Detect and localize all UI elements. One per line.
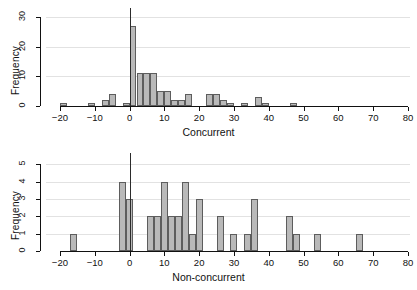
histogram-bar (217, 216, 224, 251)
x-tick-label: 30 (219, 112, 249, 123)
x-tick-label: 60 (323, 112, 353, 123)
x-tick-label: −10 (80, 257, 110, 268)
x-tick-mark (304, 107, 305, 111)
x-tick-label: 50 (289, 112, 319, 123)
x-tick-mark (234, 107, 235, 111)
histogram-bar (189, 234, 196, 251)
histogram-bar (154, 216, 161, 251)
gridline (46, 164, 410, 165)
x-tick-mark (95, 252, 96, 256)
x-tick-label: 80 (393, 112, 417, 123)
x-tick-label: −20 (45, 112, 75, 123)
y-tick-mark (36, 216, 40, 217)
x-tick-label: 40 (254, 112, 284, 123)
histogram-bar (196, 199, 203, 251)
x-tick-mark (269, 107, 270, 111)
histogram-bar (356, 234, 363, 251)
x-tick-mark (338, 107, 339, 111)
x-tick-mark (130, 107, 131, 111)
x-tick-label: 70 (358, 257, 388, 268)
x-tick-mark (338, 252, 339, 256)
x-tick-label: −20 (45, 257, 75, 268)
x-tick-label: 40 (254, 257, 284, 268)
x-tick-label: 0 (115, 112, 145, 123)
y-tick-label: 20 (17, 34, 27, 58)
x-tick-label: 0 (115, 257, 145, 268)
histogram-bar (137, 73, 144, 106)
histogram-bar (119, 182, 126, 251)
gridline (46, 47, 410, 48)
x-tick-label: 20 (184, 112, 214, 123)
plot-area-non-concurrent (46, 159, 408, 251)
x-tick-mark (164, 252, 165, 256)
histogram-bar (230, 234, 237, 251)
gridline (46, 76, 410, 77)
y-tick-label: 30 (17, 4, 27, 28)
histogram-bar (147, 216, 154, 251)
histogram-bar (164, 91, 171, 106)
histogram-bar (130, 26, 137, 106)
histogram-bar (175, 216, 182, 251)
panel-concurrent: Frequency Concurrent −20−100102030405060… (0, 0, 417, 145)
histogram-bar (185, 94, 192, 106)
y-tick-mark (36, 182, 40, 183)
y-axis-line (40, 164, 41, 251)
histogram-bar (168, 216, 175, 251)
histogram-bar (213, 94, 220, 106)
histogram-bar (109, 94, 116, 106)
x-tick-mark (95, 107, 96, 111)
histogram-bar (255, 97, 262, 106)
plot-area-concurrent (46, 14, 408, 106)
gridline (46, 17, 410, 18)
panel-non-concurrent: Frequency Non-concurrent −20−10010203040… (0, 145, 417, 290)
x-tick-mark (269, 252, 270, 256)
histogram-bar (286, 216, 293, 251)
reference-line-zero (130, 8, 131, 106)
y-tick-label: 0 (17, 93, 27, 117)
x-tick-mark (199, 107, 200, 111)
x-tick-label: 10 (149, 257, 179, 268)
x-tick-mark (164, 107, 165, 111)
x-tick-label: 10 (149, 112, 179, 123)
x-tick-label: 20 (184, 257, 214, 268)
histogram-bar (150, 73, 157, 106)
histogram-bar (143, 73, 150, 106)
histogram-figure: Frequency Concurrent −20−100102030405060… (0, 0, 417, 290)
x-tick-mark (60, 252, 61, 256)
y-tick-mark (36, 164, 40, 165)
histogram-bar (244, 234, 251, 251)
x-tick-mark (408, 252, 409, 256)
x-tick-mark (304, 252, 305, 256)
x-tick-label: 80 (393, 257, 417, 268)
histogram-bar (182, 182, 189, 251)
x-tick-mark (373, 252, 374, 256)
x-axis-label-non-concurrent: Non-concurrent (0, 271, 417, 283)
y-tick-label: 5 (17, 151, 27, 175)
histogram-bar (251, 199, 258, 251)
x-tick-mark (130, 252, 131, 256)
y-tick-label: 10 (17, 63, 27, 87)
y-tick-mark (36, 47, 40, 48)
y-tick-mark (36, 76, 40, 77)
x-tick-label: 60 (323, 257, 353, 268)
x-tick-mark (234, 252, 235, 256)
x-tick-mark (373, 107, 374, 111)
x-tick-mark (408, 107, 409, 111)
reference-line-zero (130, 153, 131, 251)
x-axis-label-concurrent: Concurrent (0, 126, 417, 138)
y-tick-mark (36, 234, 40, 235)
histogram-bar (293, 234, 300, 251)
y-tick-mark (36, 106, 40, 107)
y-tick-mark (36, 251, 40, 252)
y-tick-mark (36, 199, 40, 200)
x-tick-mark (60, 107, 61, 111)
x-tick-label: 50 (289, 257, 319, 268)
gridline (46, 199, 410, 200)
histogram-bar (70, 234, 77, 251)
y-tick-mark (36, 17, 40, 18)
histogram-bar (206, 94, 213, 106)
x-tick-label: 70 (358, 112, 388, 123)
x-tick-mark (199, 252, 200, 256)
histogram-bar (161, 182, 168, 251)
histogram-bar (157, 91, 164, 106)
